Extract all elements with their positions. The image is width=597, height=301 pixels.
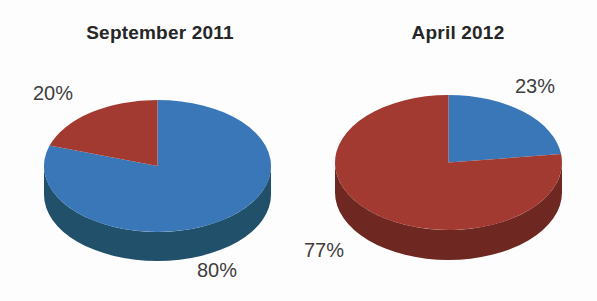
pie-slice — [449, 95, 562, 163]
pie-april-2012 — [335, 95, 562, 260]
chart-title-april-2012: April 2012 — [338, 22, 578, 44]
pie-charts-svg — [0, 0, 597, 301]
pie-september-2011 — [44, 100, 271, 261]
slice-label-2011-blue: 80% — [197, 259, 237, 282]
chart-title-september-2011: September 2011 — [40, 22, 280, 44]
slice-label-2012-blue: 23% — [515, 75, 555, 98]
slice-label-2012-red: 77% — [304, 239, 344, 262]
slice-label-2011-red: 20% — [33, 82, 73, 105]
figure-two-3d-pie-charts: September 2011 April 2012 20% 80% 23% 77… — [0, 0, 597, 301]
